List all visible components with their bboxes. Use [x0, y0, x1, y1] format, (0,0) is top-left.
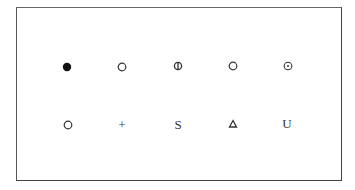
- open-circle-icon: [115, 60, 129, 74]
- triangle-icon: [226, 117, 240, 131]
- letter-u-text: U: [282, 117, 291, 130]
- circle-vertical-bar-icon: [171, 59, 185, 73]
- letter-s-text: S: [174, 118, 181, 131]
- circle-dot-icon: [281, 59, 295, 73]
- diagram-frame: [16, 7, 342, 181]
- open-circle-icon: [61, 118, 75, 132]
- plus-text: +: [118, 118, 125, 131]
- open-circle-icon: [226, 59, 240, 73]
- filled-circle-icon: [60, 60, 74, 74]
